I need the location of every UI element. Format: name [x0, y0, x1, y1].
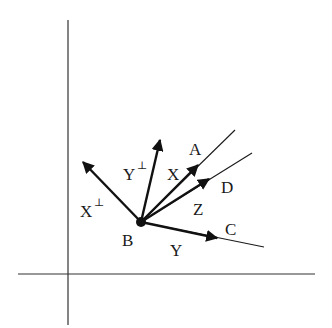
label-y: Y — [170, 241, 182, 260]
label-b: B — [122, 231, 133, 250]
label-c: C — [225, 220, 236, 239]
point-b-dot — [136, 217, 146, 227]
label-a: A — [189, 140, 202, 159]
label-x-perp: X — [80, 202, 92, 221]
label-x: X — [167, 165, 179, 184]
label-y-perp: Y — [123, 165, 135, 184]
label-y-perp-superscript: ⊥ — [137, 159, 147, 171]
vector-y-arrow — [141, 222, 217, 238]
label-x-perp-superscript: ⊥ — [94, 196, 104, 208]
vector-y-perp-arrow — [141, 140, 160, 222]
vector-diagram: B A D C X Z Y X ⊥ Y ⊥ — [0, 0, 332, 328]
label-d: D — [221, 178, 233, 197]
label-z: Z — [193, 200, 203, 219]
